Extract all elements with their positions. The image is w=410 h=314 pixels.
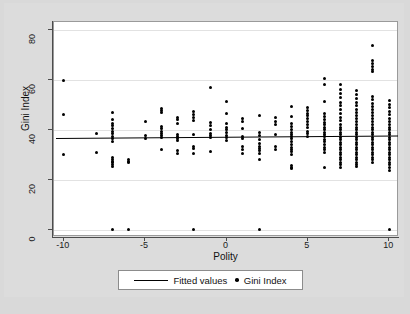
scatter-point	[323, 77, 326, 80]
scatter-point	[225, 139, 228, 142]
scatter-point	[111, 111, 114, 114]
y-axis-tick	[48, 79, 52, 80]
y-axis-tick	[48, 129, 52, 130]
x-axis-tick-label: 0	[213, 240, 239, 250]
y-axis-tick	[48, 229, 52, 230]
scatter-point	[323, 166, 326, 169]
chart-legend: Fitted values Gini Index	[118, 270, 303, 290]
legend-entry-gini-index: Gini Index	[235, 275, 286, 286]
gridline	[54, 230, 397, 231]
scatter-point	[274, 123, 277, 126]
scatter-point	[388, 228, 391, 231]
scatter-point	[160, 111, 163, 114]
scatter-point	[192, 133, 195, 136]
scatter-point	[209, 124, 212, 127]
scatter-point	[127, 228, 130, 231]
y-axis-tick	[48, 29, 52, 30]
y-axis-tick-label: 80	[27, 28, 37, 50]
scatter-point	[290, 153, 293, 156]
scatter-point	[339, 96, 342, 99]
scatter-point	[192, 228, 195, 231]
x-axis-tick-label: -10	[50, 240, 76, 250]
scatter-point	[160, 148, 163, 151]
scatter-point	[111, 228, 114, 231]
scatter-point	[225, 112, 228, 115]
scatter-point	[258, 228, 261, 231]
scatter-point	[355, 165, 358, 168]
scatter-point	[111, 118, 114, 121]
plot-panel	[53, 21, 398, 236]
scatter-point	[192, 152, 195, 155]
scatter-point	[339, 104, 342, 107]
legend-entry-fitted-values: Fitted values	[134, 275, 227, 286]
scatter-point	[111, 165, 114, 168]
graph-region: Gini Index Polity 020406080-10-50510	[4, 3, 404, 297]
scatter-point	[290, 115, 293, 118]
scatter-point	[274, 116, 277, 119]
scatter-point	[339, 108, 342, 111]
scatter-point	[290, 167, 293, 170]
scatter-point	[192, 147, 195, 150]
x-axis-tick-label: -5	[131, 240, 157, 250]
scatter-point	[225, 100, 228, 103]
scatter-point	[323, 100, 326, 103]
gridline	[54, 30, 397, 31]
y-axis-tick	[48, 179, 52, 180]
scatter-point	[95, 132, 98, 135]
scatter-point	[176, 118, 179, 121]
scatter-point	[176, 122, 179, 125]
y-axis-line	[52, 21, 53, 237]
legend-line-marker	[134, 280, 168, 281]
scatter-point	[371, 70, 374, 73]
scatter-point	[111, 140, 114, 143]
scatter-point	[323, 151, 326, 154]
scatter-point	[339, 166, 342, 169]
scatter-point	[388, 106, 391, 109]
x-axis-title: Polity	[52, 251, 399, 262]
scatter-point	[355, 89, 358, 92]
scatter-point	[323, 83, 326, 86]
scatter-point	[241, 148, 244, 151]
x-axis-tick-label: 10	[375, 240, 401, 250]
scatter-point	[209, 150, 212, 153]
scatter-point	[355, 97, 358, 100]
gridline	[54, 180, 397, 181]
scatter-point	[306, 126, 309, 129]
scatter-point	[339, 83, 342, 86]
scatter-point	[241, 152, 244, 155]
scatter-point	[371, 44, 374, 47]
scatter-point	[241, 120, 244, 123]
scatter-point	[62, 113, 65, 116]
scatter-point	[144, 120, 147, 123]
y-axis-tick-label: 60	[27, 78, 37, 100]
scatter-point	[176, 152, 179, 155]
scatter-point	[339, 119, 342, 122]
figure-container: Gini Index Polity 020406080-10-50510 Fit…	[0, 0, 410, 314]
scatter-point	[339, 92, 342, 95]
scatter-point	[209, 86, 212, 89]
scatter-point	[62, 79, 65, 82]
scatter-point	[355, 104, 358, 107]
scatter-point	[339, 88, 342, 91]
y-axis-tick-label: 0	[27, 228, 37, 250]
scatter-point	[192, 119, 195, 122]
scatter-point	[388, 99, 391, 102]
scatter-point	[258, 138, 261, 141]
legend-label-fitted-values: Fitted values	[173, 275, 227, 286]
legend-dot-marker	[235, 278, 239, 282]
x-axis-tick-label: 5	[294, 240, 320, 250]
scatter-point	[274, 148, 277, 151]
scatter-point	[388, 169, 391, 172]
scatter-point	[371, 98, 374, 101]
scatter-point	[95, 151, 98, 154]
scatter-point	[371, 161, 374, 164]
y-axis-tick-label: 20	[27, 178, 37, 200]
scatter-point	[241, 117, 244, 120]
scatter-point	[339, 112, 342, 115]
scatter-point	[290, 105, 293, 108]
scatter-point	[127, 161, 130, 164]
scatter-point	[225, 122, 228, 125]
legend-label-gini-index: Gini Index	[244, 275, 287, 286]
scatter-point	[355, 93, 358, 96]
gridline	[54, 80, 397, 81]
